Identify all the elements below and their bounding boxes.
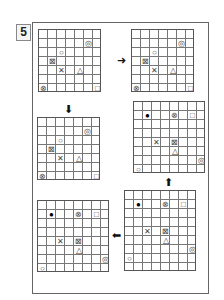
- circle-icon: ○: [125, 254, 134, 263]
- boxed-x-icon: ⊠: [74, 237, 83, 246]
- triangle-icon: △: [74, 246, 83, 255]
- circle-icon: ○: [150, 48, 159, 57]
- x-icon: ✕: [57, 66, 66, 75]
- circle-icon: ○: [38, 264, 47, 273]
- boxed-x-icon: ⊠: [47, 145, 56, 154]
- double-circle-icon: ◎: [101, 255, 110, 264]
- arrow-down-icon: ⬇: [64, 104, 73, 115]
- double-circle-icon: ◎: [197, 156, 206, 165]
- x-icon: ✕: [56, 237, 65, 246]
- circled-x-icon: ⊗: [38, 172, 47, 181]
- arrow-up-icon: ⬆: [164, 177, 173, 188]
- double-circle-icon: ◎: [84, 39, 93, 48]
- grid-top-left: ◎○⊠✕△⊗□: [38, 29, 101, 92]
- double-circle-icon: ◎: [83, 127, 92, 136]
- x-icon: ✕: [150, 66, 159, 75]
- square-icon: □: [93, 84, 102, 93]
- triangle-icon: △: [168, 66, 177, 75]
- circled-x-icon: ⊗: [170, 111, 179, 120]
- circle-icon: ○: [57, 48, 66, 57]
- triangle-icon: △: [161, 236, 170, 245]
- square-icon: □: [92, 172, 101, 181]
- arrow-right-icon: ➜: [117, 55, 126, 66]
- triangle-icon: △: [74, 154, 83, 163]
- square-icon: □: [188, 111, 197, 120]
- square-icon: □: [179, 200, 188, 209]
- circled-x-icon: ⊗: [132, 84, 141, 93]
- grid-bottom-right: ●⊗□✕⊠△◎○: [124, 190, 196, 271]
- grid-top-right: ◎○⊠✕△⊗□: [131, 29, 194, 92]
- filled-circle-icon: ●: [134, 200, 143, 209]
- puzzle-number-label: 5: [16, 24, 31, 41]
- square-icon: □: [92, 210, 101, 219]
- x-icon: ✕: [152, 138, 161, 147]
- x-icon: ✕: [56, 154, 65, 163]
- boxed-x-icon: ⊠: [141, 57, 150, 66]
- circle-icon: ○: [56, 136, 65, 145]
- arrow-left-icon: ⬅: [112, 230, 121, 241]
- boxed-x-icon: ⊠: [48, 57, 57, 66]
- x-icon: ✕: [143, 227, 152, 236]
- boxed-x-icon: ⊠: [161, 227, 170, 236]
- circled-x-icon: ⊗: [161, 200, 170, 209]
- double-circle-icon: ◎: [177, 39, 186, 48]
- circle-icon: ○: [134, 165, 143, 174]
- double-circle-icon: ◎: [188, 245, 197, 254]
- circled-x-icon: ⊗: [39, 84, 48, 93]
- filled-circle-icon: ●: [47, 210, 56, 219]
- grid-middle-left: ◎○⊠✕△⊗□: [37, 117, 100, 180]
- filled-circle-icon: ●: [143, 111, 152, 120]
- grid-bottom-left: ●⊗□✕⊠△◎○: [37, 200, 109, 272]
- square-icon: □: [186, 84, 195, 93]
- circled-x-icon: ⊗: [74, 210, 83, 219]
- triangle-icon: △: [170, 147, 179, 156]
- triangle-icon: △: [75, 66, 84, 75]
- grid-middle-right: ●⊗□✕⊠△◎○: [133, 101, 205, 173]
- boxed-x-icon: ⊠: [170, 138, 179, 147]
